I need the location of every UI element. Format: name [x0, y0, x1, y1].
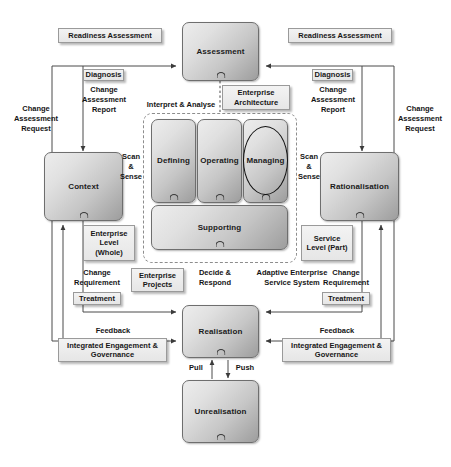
text-pull: Pull — [182, 363, 210, 373]
label-diagnosis-right: Diagnosis — [312, 69, 353, 81]
label-enterprise-projects: Enterprise Projects — [131, 268, 184, 292]
text-feedback-left: Feedback — [82, 326, 144, 336]
label-enterprise-level-whole: Enterprise Level (Whole) — [83, 225, 135, 261]
socket-icon — [216, 434, 225, 440]
text-adaptive-enterprise-service-system: Adaptive Enterprise Service System — [244, 268, 340, 288]
label-integrated-governance-right: Integrated Engagement & Governance — [282, 338, 391, 362]
socket-icon — [355, 212, 364, 218]
label-enterprise-architecture: Enterprise Architecture — [222, 85, 290, 110]
node-operating[interactable]: Operating — [197, 119, 242, 203]
socket-icon — [216, 72, 225, 78]
node-assessment[interactable]: Assessment — [182, 22, 259, 81]
text-feedback-right: Feedback — [306, 326, 368, 336]
node-unrealisation[interactable]: Unrealisation — [182, 380, 259, 443]
node-context[interactable]: Context — [44, 152, 123, 221]
text-scan-and-sense-right: Scan & Sense — [297, 152, 321, 181]
label-service-level-part: Service Level (Part) — [301, 225, 353, 261]
diagram-canvas: Assessment Context Rationalisation Defin… — [0, 0, 451, 467]
label-readiness-assessment-right: Readiness Assessment — [288, 28, 392, 43]
socket-icon — [215, 241, 224, 247]
socket-icon — [216, 349, 225, 355]
label-readiness-assessment-left: Readiness Assessment — [58, 28, 162, 43]
node-assessment-label: Assessment — [196, 47, 244, 56]
node-rationalisation[interactable]: Rationalisation — [320, 152, 399, 221]
text-push: Push — [231, 363, 259, 373]
node-supporting[interactable]: Supporting — [151, 205, 288, 250]
label-treatment-left: Treatment — [73, 292, 121, 305]
text-change-assessment-report-left: Change Assessment Report — [73, 85, 135, 114]
text-change-assessment-request-left: Change Assessment Request — [6, 104, 66, 133]
managing-focus-ellipse — [243, 126, 288, 195]
text-change-assessment-report-right: Change Assessment Report — [302, 85, 364, 114]
text-decide-and-respond: Decide & Respond — [186, 268, 244, 288]
node-defining[interactable]: Defining — [151, 119, 196, 203]
label-integrated-governance-left: Integrated Engagement & Governance — [58, 338, 167, 362]
socket-icon — [169, 194, 178, 200]
node-realisation[interactable]: Realisation — [182, 305, 259, 358]
node-defining-label: Defining — [157, 156, 190, 165]
node-context-label: Context — [68, 182, 98, 191]
node-operating-label: Operating — [200, 156, 239, 165]
label-diagnosis-left: Diagnosis — [83, 69, 124, 81]
text-change-requirement-left: Change Requirement — [66, 268, 128, 288]
text-change-assessment-request-right: Change Assessment Request — [390, 104, 450, 133]
text-interpret-and-analyse: Interpret & Analyse — [139, 100, 223, 110]
text-scan-and-sense-left: Scan & Sense — [119, 152, 143, 181]
socket-icon — [79, 212, 88, 218]
label-treatment-right: Treatment — [322, 292, 370, 305]
node-rationalisation-label: Rationalisation — [330, 182, 389, 191]
node-unrealisation-label: Unrealisation — [195, 407, 247, 416]
node-supporting-label: Supporting — [198, 223, 242, 232]
socket-icon — [215, 194, 224, 200]
node-realisation-label: Realisation — [199, 327, 243, 336]
